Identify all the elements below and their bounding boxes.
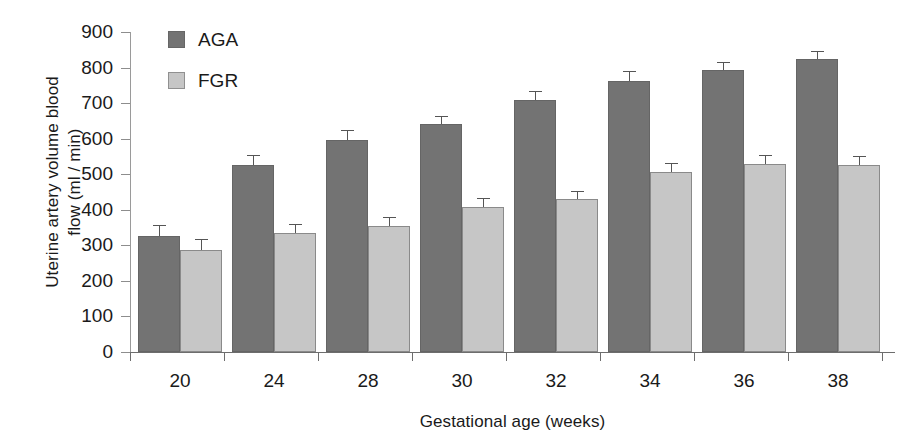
x-axis-tick-label: 34 (610, 370, 690, 392)
error-bar-stem (765, 156, 766, 164)
bar-aga-38 (796, 59, 838, 352)
error-bar-stem (295, 225, 296, 234)
error-bar-cap (477, 198, 490, 199)
x-axis-tick (224, 352, 225, 361)
bar-aga-32 (514, 100, 556, 352)
y-axis-tick-label: 400 (49, 199, 113, 220)
y-axis-tick: 600 (121, 139, 130, 140)
error-bar-cap (665, 163, 678, 164)
x-axis-tick-label: 24 (234, 370, 314, 392)
bar-chart: Uterine artery volume bloodflow (ml / mi… (0, 0, 908, 443)
bar-aga-24 (232, 165, 274, 352)
y-axis-tick-label: 700 (49, 92, 113, 113)
y-axis-tick: 200 (121, 281, 130, 282)
x-axis-tick (882, 352, 883, 361)
bar-fgr-32 (556, 199, 598, 352)
error-bar-cap (341, 130, 354, 131)
error-bar-stem (347, 131, 348, 139)
bar-aga-34 (608, 81, 650, 352)
x-axis-tick (506, 352, 507, 361)
bar-fgr-36 (744, 164, 786, 352)
bar-fgr-30 (462, 207, 504, 352)
legend-label-aga: AGA (198, 30, 238, 49)
bar-aga-20 (138, 236, 180, 352)
error-bar-stem (817, 52, 818, 59)
error-bar-stem (389, 218, 390, 226)
error-bar-cap (853, 156, 866, 157)
bar-fgr-20 (180, 250, 222, 352)
error-bar-cap (383, 217, 396, 218)
error-bar-cap (153, 225, 166, 226)
y-axis-line (130, 32, 131, 352)
error-bar-cap (195, 239, 208, 240)
x-axis-line (130, 352, 895, 353)
bar-fgr-28 (368, 226, 410, 352)
bar-aga-36 (702, 70, 744, 352)
legend-swatch-fgr-icon (168, 72, 185, 89)
bar-fgr-24 (274, 233, 316, 352)
y-axis-tick: 400 (121, 210, 130, 211)
x-axis-tick (412, 352, 413, 361)
y-axis-tick-label: 800 (49, 57, 113, 78)
error-bar-stem (253, 156, 254, 165)
x-axis-tick (788, 352, 789, 361)
y-axis-tick-label: 600 (49, 128, 113, 149)
y-axis-tick: 300 (121, 245, 130, 246)
error-bar-stem (201, 240, 202, 250)
y-axis-tick-label: 500 (49, 163, 113, 184)
y-axis-tick-label: 0 (49, 341, 113, 362)
y-axis-tick-label: 300 (49, 234, 113, 255)
x-axis-tick (130, 352, 131, 361)
bar-aga-30 (420, 124, 462, 352)
error-bar-cap (811, 51, 824, 52)
legend-swatch-aga-icon (168, 31, 185, 48)
legend-label-fgr: FGR (198, 71, 238, 90)
y-axis-tick: 900 (121, 32, 130, 33)
y-axis-tick: 100 (121, 316, 130, 317)
x-axis-tick-label: 20 (140, 370, 220, 392)
legend-item-aga: AGA (168, 30, 238, 49)
y-axis-tick-label: 900 (49, 21, 113, 42)
plot-area: 0100200300400500600700800900 20242830323… (130, 32, 895, 352)
y-axis-tick: 0 (121, 352, 130, 353)
error-bar-stem (535, 92, 536, 100)
error-bar-stem (723, 63, 724, 70)
x-axis-tick (600, 352, 601, 361)
y-axis-tick: 500 (121, 174, 130, 175)
x-axis-tick-label: 32 (516, 370, 596, 392)
x-axis-tick (694, 352, 695, 361)
x-axis-tick-label: 30 (422, 370, 502, 392)
error-bar-stem (671, 164, 672, 173)
error-bar-cap (435, 116, 448, 117)
error-bar-stem (859, 157, 860, 165)
error-bar-cap (247, 155, 260, 156)
x-axis-tick (318, 352, 319, 361)
error-bar-stem (159, 226, 160, 236)
error-bar-cap (717, 62, 730, 63)
error-bar-cap (571, 191, 584, 192)
legend-item-fgr: FGR (168, 71, 238, 90)
y-axis-tick: 700 (121, 103, 130, 104)
error-bar-cap (759, 155, 772, 156)
x-axis-tick-label: 28 (328, 370, 408, 392)
legend: AGA FGR (168, 30, 238, 112)
bar-aga-28 (326, 140, 368, 352)
y-axis-tick-label: 100 (49, 305, 113, 326)
error-bar-cap (529, 91, 542, 92)
error-bar-stem (441, 117, 442, 125)
x-axis-tick-label: 36 (704, 370, 784, 392)
x-axis-tick-label: 38 (798, 370, 878, 392)
error-bar-stem (629, 72, 630, 80)
error-bar-stem (483, 199, 484, 207)
error-bar-cap (289, 224, 302, 225)
bar-fgr-38 (838, 165, 880, 352)
y-axis-tick-label: 200 (49, 270, 113, 291)
x-axis-title: Gestational age (weeks) (130, 412, 895, 432)
error-bar-stem (577, 192, 578, 199)
error-bar-cap (623, 71, 636, 72)
y-axis-tick: 800 (121, 68, 130, 69)
bar-fgr-34 (650, 172, 692, 352)
